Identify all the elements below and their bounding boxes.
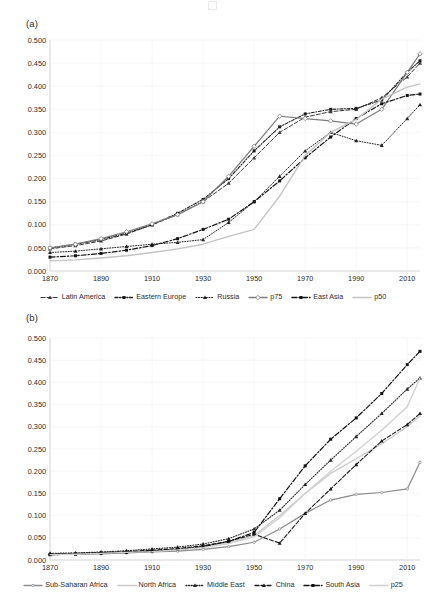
y-tick-label: 0.500 xyxy=(28,36,46,45)
x-tick-label: 1970 xyxy=(297,274,313,283)
legend-item-middle-east[interactable]: Middle East xyxy=(185,581,245,590)
y-tick-label: 0.300 xyxy=(28,422,46,431)
series-marker xyxy=(406,363,409,366)
legend-item-south-asia[interactable]: South Asia xyxy=(303,581,359,590)
x-tick-label: 1990 xyxy=(348,274,364,283)
series-marker xyxy=(278,497,281,500)
series-marker xyxy=(32,584,34,586)
legend-item-p50[interactable]: p50 xyxy=(352,293,386,302)
series-marker xyxy=(49,256,52,259)
series-line xyxy=(50,413,420,553)
legend-label: South Asia xyxy=(325,581,359,588)
y-tick-label: 0.200 xyxy=(28,174,46,183)
legend-label: p50 xyxy=(374,293,386,300)
gridlines xyxy=(50,338,420,560)
series-eastern-europe xyxy=(49,59,422,249)
series-line xyxy=(50,54,420,248)
y-tick-label: 0.050 xyxy=(28,244,46,253)
series-middle-east xyxy=(48,376,422,555)
series-line xyxy=(50,351,420,554)
series-marker xyxy=(176,237,179,240)
y-tick-label: 0.250 xyxy=(28,151,46,160)
x-tick-label: 1950 xyxy=(246,563,262,572)
series-marker xyxy=(304,112,307,115)
series-marker xyxy=(151,244,154,247)
series-marker xyxy=(312,584,315,587)
legend-swatch-icon xyxy=(369,581,389,590)
series-marker xyxy=(418,411,422,415)
series-line xyxy=(50,94,420,257)
series-marker xyxy=(227,218,230,221)
series-marker xyxy=(253,149,256,152)
series-line xyxy=(50,61,420,248)
y-tick-label: 0.050 xyxy=(28,533,46,542)
series-marker xyxy=(278,179,281,182)
legend-label: p75 xyxy=(270,293,282,300)
legend-swatch-icon xyxy=(114,293,134,302)
x-tick-label: 1910 xyxy=(144,274,160,283)
legend-item-sub-saharan-africa[interactable]: Sub-Saharan Africa xyxy=(23,581,107,590)
y-tick-labels: 0.0000.0500.1000.1500.2000.2500.3000.350… xyxy=(28,36,46,276)
series-marker xyxy=(176,240,180,244)
series-marker xyxy=(227,540,230,543)
series-marker xyxy=(125,249,128,252)
series-marker xyxy=(328,119,332,123)
legend-item-china[interactable]: China xyxy=(254,581,295,590)
legend-label: Russia xyxy=(217,293,239,300)
panel-b-legend: Sub-Saharan AfricaNorth AfricaMiddle Eas… xyxy=(0,578,426,592)
y-tick-label: 0.100 xyxy=(28,511,46,520)
legend-label: Sub-Saharan Africa xyxy=(45,581,107,588)
series-marker xyxy=(406,488,408,490)
x-tick-label: 1870 xyxy=(42,274,58,283)
legend-swatch-icon xyxy=(185,581,205,590)
legend-swatch-icon xyxy=(352,293,372,302)
legend-swatch-icon xyxy=(40,293,60,302)
legend-swatch-icon xyxy=(254,581,274,590)
series-marker xyxy=(74,254,77,257)
series-marker xyxy=(227,545,229,547)
y-tick-label: 0.400 xyxy=(28,82,46,91)
legend-label: Eastern Europe xyxy=(136,293,186,300)
x-tick-label: 1930 xyxy=(195,563,211,572)
series-marker xyxy=(278,125,281,128)
y-tick-labels: 0.0000.0500.1000.1500.2000.2500.3000.350… xyxy=(28,334,46,565)
legend-item-p75[interactable]: p75 xyxy=(248,293,282,302)
legend-item-russia[interactable]: Russia xyxy=(195,293,239,302)
series-north-africa xyxy=(50,416,420,555)
panel-a: (a) 0.0000.0500.1000.1500.2000.2500.3000… xyxy=(0,14,426,310)
legend-swatch-icon xyxy=(291,293,311,302)
legend-label: Middle East xyxy=(207,581,245,588)
y-tick-label: 0.200 xyxy=(28,467,46,476)
x-tick-label: 1870 xyxy=(42,563,58,572)
series-marker xyxy=(253,541,255,543)
y-tick-label: 0.350 xyxy=(28,105,46,114)
series-marker xyxy=(355,416,358,419)
legend-item-eastern-europe[interactable]: Eastern Europe xyxy=(114,293,186,302)
y-tick-label: 0.150 xyxy=(28,197,46,206)
y-tick-label: 0.100 xyxy=(28,220,46,229)
legend-swatch-icon xyxy=(303,581,323,590)
legend-swatch-icon xyxy=(248,293,268,302)
series-marker xyxy=(329,108,332,111)
legend-item-p25[interactable]: p25 xyxy=(369,581,403,590)
x-tick-labels: 18701890191019301950197019902010 xyxy=(42,274,415,283)
series-marker xyxy=(329,438,332,441)
page-top-mark xyxy=(208,1,217,10)
legend-label: North Africa xyxy=(139,581,177,588)
legend-item-east-asia[interactable]: East Asia xyxy=(291,293,343,302)
x-tick-label: 1970 xyxy=(297,563,313,572)
figure-container: (a) 0.0000.0500.1000.1500.2000.2500.3000… xyxy=(0,0,426,596)
gridlines xyxy=(50,40,420,271)
legend-item-north-africa[interactable]: North Africa xyxy=(117,581,177,590)
series-marker xyxy=(253,531,256,534)
x-tick-label: 1950 xyxy=(246,274,262,283)
y-tick-label: 0.450 xyxy=(28,356,46,365)
legend-item-latin-america[interactable]: Latin America xyxy=(40,293,106,302)
series-marker xyxy=(406,94,409,97)
y-tick-label: 0.150 xyxy=(28,489,46,498)
series-marker xyxy=(419,350,422,353)
series-marker xyxy=(419,59,422,62)
panel-b: (b) 0.0000.0500.1000.1500.2000.2500.3000… xyxy=(0,310,426,596)
y-tick-label: 0.250 xyxy=(28,445,46,454)
series-marker xyxy=(48,246,52,250)
